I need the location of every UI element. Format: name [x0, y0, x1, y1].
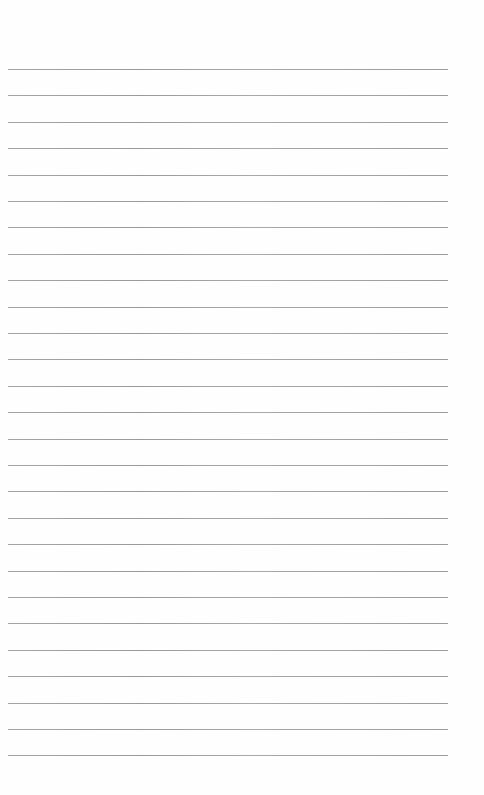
ruled-line: [8, 307, 448, 308]
ruled-line: [8, 597, 448, 598]
ruled-line: [8, 439, 448, 440]
ruled-line: [8, 175, 448, 176]
ruled-line: [8, 650, 448, 651]
ruled-line: [8, 359, 448, 360]
ruled-line: [8, 729, 448, 730]
ruled-line: [8, 201, 448, 202]
ruled-line: [8, 333, 448, 334]
ruled-line: [8, 386, 448, 387]
ruled-line: [8, 227, 448, 228]
ruled-line: [8, 95, 448, 96]
ruled-line: [8, 280, 448, 281]
ruled-line: [8, 755, 448, 756]
ruled-line: [8, 122, 448, 123]
lined-paper-page: [0, 0, 484, 795]
ruled-line: [8, 703, 448, 704]
ruled-line: [8, 69, 448, 70]
ruled-line: [8, 676, 448, 677]
ruled-line: [8, 412, 448, 413]
ruled-line: [8, 544, 448, 545]
ruled-line: [8, 465, 448, 466]
ruled-line: [8, 148, 448, 149]
ruled-line: [8, 623, 448, 624]
ruled-line: [8, 491, 448, 492]
ruled-line: [8, 571, 448, 572]
ruled-line: [8, 254, 448, 255]
ruled-line: [8, 518, 448, 519]
